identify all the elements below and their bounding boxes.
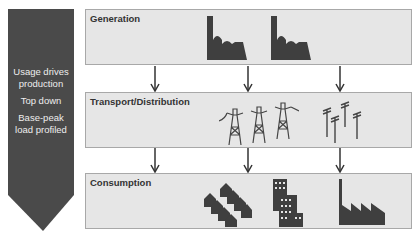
down-arrow-icon [243, 148, 253, 173]
down-arrow-icon [243, 66, 253, 92]
generation-layer: Generation [85, 9, 412, 65]
down-arrow-icon [335, 66, 345, 92]
chevron-label-basepeak: Base-peak load profiled [8, 112, 74, 136]
down-arrow-icon [150, 66, 160, 92]
transport-distribution-layer: Transport/Distribution [85, 92, 412, 148]
power-plant-icon [207, 16, 247, 60]
houses-icon [202, 177, 252, 227]
office-buildings-icon [271, 177, 303, 227]
utility-poles-icon [321, 101, 366, 145]
chevron-labels: Usage drives production Top down Base-pe… [8, 66, 74, 141]
down-arrow-icon [335, 148, 345, 173]
factory-icon [339, 179, 385, 225]
down-arrow-icon [150, 148, 160, 173]
consumption-title: Consumption [90, 177, 151, 188]
chevron-label-usage: Usage drives production [8, 66, 74, 90]
consumption-layer: Consumption [85, 173, 412, 229]
power-plant-icon [271, 16, 311, 60]
transport-title: Transport/Distribution [90, 96, 190, 107]
transmission-towers-icon [219, 101, 299, 145]
generation-title: Generation [90, 13, 140, 24]
chevron-label-topdown: Top down [8, 95, 74, 107]
